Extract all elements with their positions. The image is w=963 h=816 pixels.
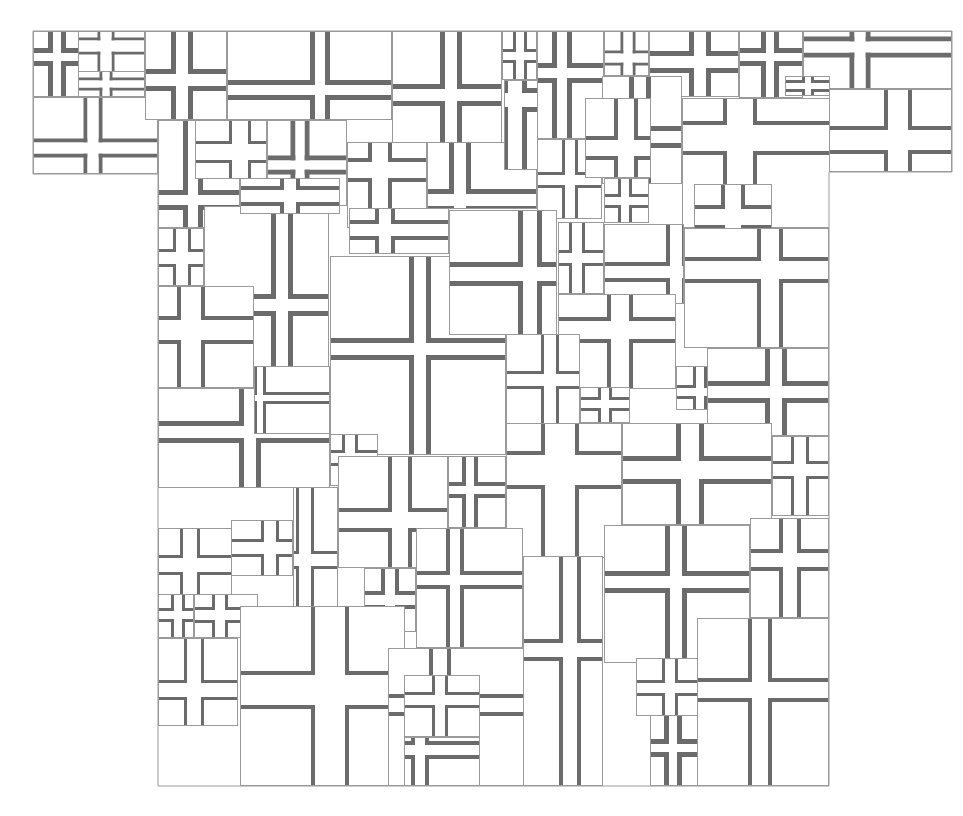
cross-tile: [227, 31, 392, 120]
cross-tile: [449, 210, 557, 335]
cross-tile: [772, 436, 829, 516]
cross-tile: [145, 31, 227, 120]
cross-tile: [622, 423, 772, 525]
cross-tile: [506, 334, 580, 424]
cross-tiles-layer: [33, 31, 952, 786]
cross-tile: [604, 224, 686, 304]
cross-tile: [707, 348, 829, 436]
cross-tile: [416, 528, 523, 648]
cross-tile: [684, 228, 829, 348]
cross-tile: [785, 76, 830, 96]
cross-tile: [254, 366, 330, 434]
cross-tile: [585, 98, 651, 178]
cross-tile: [195, 120, 267, 179]
cross-tile: [349, 208, 449, 254]
cross-tile: [240, 606, 405, 786]
cross-tile: [158, 638, 238, 726]
cross-tile: [404, 675, 480, 737]
cross-tile: [392, 31, 502, 143]
cross-tile: [650, 715, 698, 786]
cross-tile: [604, 178, 649, 223]
cross-tile: [523, 556, 603, 786]
cross-tile: [231, 520, 293, 576]
cross-tile: [604, 31, 649, 76]
cross-tile: [293, 487, 338, 607]
cross-tile: [503, 80, 538, 170]
cross-tile: [158, 594, 194, 638]
cross-tile: [240, 178, 340, 214]
cross-tile: [158, 228, 204, 286]
cross-tile: [158, 286, 254, 388]
cross-tile: [750, 518, 829, 618]
tshirt-collage-artwork: [0, 0, 963, 816]
cross-tile: [558, 222, 604, 294]
cross-tile: [33, 31, 79, 97]
cross-tile: [580, 387, 630, 423]
cross-tile: [502, 31, 537, 80]
cross-tile: [33, 97, 158, 174]
cross-tile: [697, 618, 829, 786]
cross-tile: [636, 658, 698, 716]
cross-tile: [829, 89, 952, 172]
cross-tile: [404, 737, 480, 786]
cross-tile: [78, 71, 145, 97]
cross-tile: [448, 456, 506, 528]
